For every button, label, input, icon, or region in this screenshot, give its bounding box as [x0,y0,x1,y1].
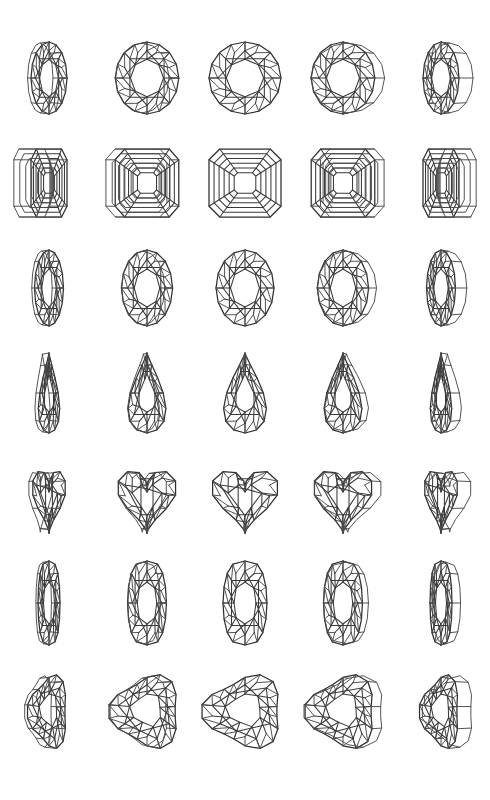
gem-facet-group [223,561,267,645]
gem-facet-group [14,149,67,217]
gem-cell-trillion-brilliant-tilted-left [0,655,98,760]
gem-cell-emerald-step-tilted-right [392,130,490,235]
gem-cell-emerald-step-three-quarter-left [98,130,196,235]
gem-facet-group [314,471,380,533]
gem-facet-group [430,561,461,645]
gem-plate [0,0,490,800]
gem-facet-group [128,561,167,645]
gem-facet-group [311,149,384,217]
gem-facet-group [29,471,65,533]
gem-cell-marquise-brilliant-three-quarter-left [98,550,196,655]
gem-cell-round-brilliant-tilted-right [392,25,490,130]
gem-diagram-marquise-brilliant [99,551,195,655]
gem-facet-group [128,353,166,433]
gem-cell-pear-brilliant-three-quarter-left [98,340,196,445]
gem-cell-oval-brilliant-face-up [196,235,294,340]
gem-cell-trillion-brilliant-face-up [196,655,294,760]
gem-facet-group [317,250,376,326]
gem-cell-round-brilliant-tilted-left [0,25,98,130]
gem-diagram-marquise-brilliant [197,551,293,655]
gem-cell-trillion-brilliant-three-quarter-right [294,655,392,760]
gem-diagram-heart-brilliant [393,446,489,550]
gem-diagram-pear-brilliant [1,341,97,445]
gem-cell-oval-brilliant-tilted-left [0,235,98,340]
gem-diagram-oval-brilliant [197,236,293,340]
gem-cell-round-brilliant-three-quarter-right [294,25,392,130]
gem-facet-group [25,674,66,748]
gem-cell-pear-brilliant-tilted-left [0,340,98,445]
gem-cell-emerald-step-three-quarter-right [294,130,392,235]
gem-diagram-emerald-step [197,131,293,235]
gem-diagram-pear-brilliant [99,341,195,445]
gem-diagram-oval-brilliant [295,236,391,340]
gem-diagram-round-brilliant [99,26,195,130]
gem-diagram-oval-brilliant [1,236,97,340]
gem-facet-group [202,674,278,748]
gem-facet-group [324,353,368,433]
gem-facet-group [425,471,471,533]
gem-cell-round-brilliant-three-quarter-left [98,25,196,130]
gem-facet-group [35,353,60,433]
gem-diagram-trillion-brilliant [393,656,489,760]
gem-cell-trillion-brilliant-three-quarter-left [98,655,196,760]
gem-facet-group [224,353,267,433]
gem-diagram-pear-brilliant [393,341,489,445]
gem-diagram-marquise-brilliant [1,551,97,655]
gem-diagram-round-brilliant [295,26,391,130]
gem-diagram-trillion-brilliant [99,656,195,760]
gem-facet-group [423,42,473,114]
gem-facet-group [115,42,179,114]
gem-diagram-trillion-brilliant [1,656,97,760]
gem-diagram-marquise-brilliant [295,551,391,655]
gem-diagram-heart-brilliant [1,446,97,550]
gem-facet-group [423,149,476,217]
gem-cell-heart-brilliant-three-quarter-right [294,445,392,550]
gem-cell-heart-brilliant-three-quarter-left [98,445,196,550]
gem-facet-group [304,674,382,748]
gem-cell-oval-brilliant-three-quarter-right [294,235,392,340]
gem-cell-heart-brilliant-tilted-right [392,445,490,550]
gem-diagram-trillion-brilliant [295,656,391,760]
gem-diagram-round-brilliant [1,26,97,130]
gem-facet-group [216,250,274,326]
gem-diagram-emerald-step [1,131,97,235]
gem-diagram-emerald-step [99,131,195,235]
gem-diagram-heart-brilliant [99,446,195,550]
gem-cell-emerald-step-face-up [196,130,294,235]
gem-cell-pear-brilliant-face-up [196,340,294,445]
gem-diagram-heart-brilliant [295,446,391,550]
gem-facet-group [311,42,385,114]
gem-cell-oval-brilliant-tilted-right [392,235,490,340]
gem-diagram-pear-brilliant [295,341,391,445]
gem-facet-group [118,471,175,533]
gem-cell-pear-brilliant-three-quarter-right [294,340,392,445]
gem-facet-group [36,561,60,645]
gem-cell-marquise-brilliant-tilted-left [0,550,98,655]
gem-facet-group [420,674,472,748]
gem-facet-group [32,250,64,326]
gem-facet-group [106,149,179,217]
gem-grid [0,0,490,760]
gem-cell-heart-brilliant-face-up [196,445,294,550]
gem-diagram-oval-brilliant [393,236,489,340]
gem-cell-oval-brilliant-three-quarter-left [98,235,196,340]
gem-diagram-heart-brilliant [197,446,293,550]
gem-cell-heart-brilliant-tilted-left [0,445,98,550]
gem-facet-group [209,149,281,217]
gem-diagram-emerald-step [295,131,391,235]
gem-cell-marquise-brilliant-three-quarter-right [294,550,392,655]
gem-diagram-oval-brilliant [99,236,195,340]
gem-diagram-round-brilliant [197,26,293,130]
gem-diagram-marquise-brilliant [393,551,489,655]
gem-facet-group [28,42,67,114]
gem-cell-marquise-brilliant-face-up [196,550,294,655]
gem-diagram-pear-brilliant [197,341,293,445]
gem-facet-group [427,250,467,326]
gem-cell-emerald-step-tilted-left [0,130,98,235]
gem-facet-group [109,674,176,748]
gem-cell-trillion-brilliant-tilted-right [392,655,490,760]
gem-diagram-round-brilliant [393,26,489,130]
gem-facet-group [323,561,368,645]
gem-diagram-emerald-step [393,131,489,235]
gem-facet-group [209,42,281,114]
